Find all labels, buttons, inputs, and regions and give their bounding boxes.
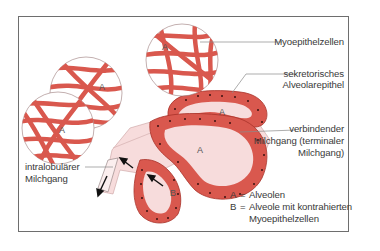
label-myoepithelzellen: Myoepithelzellen <box>274 36 344 47</box>
alveolus-letter-a: A <box>219 107 225 117</box>
alveolus-letter-b: B <box>170 188 176 198</box>
label-intralobulaer-1: intralobulärer <box>25 161 80 172</box>
alveolus-letter-a: A <box>99 82 105 92</box>
legend-b-key: B <box>230 201 236 212</box>
label-verbindender-1: verbindender <box>289 123 344 134</box>
label-verbindender-2: Milchgang (terminaler <box>254 135 344 146</box>
legend-b-text-2: Myoepithelzellen <box>249 213 319 224</box>
label-sekretorisches-2: Alveolarepithel <box>283 79 344 90</box>
alveolus-letter-a: A <box>197 145 203 155</box>
label-sekretorisches-1: sekretorisches <box>284 68 344 79</box>
legend-a-eq: = <box>240 189 246 200</box>
label-intralobulaer-2: Milchgang <box>25 173 68 184</box>
legend-b-eq: = <box>240 201 246 212</box>
myoepithel-alveolus-top <box>140 24 230 100</box>
legend-b-text-1: Alveole mit kontrahierten <box>249 201 352 212</box>
legend-a-key: A <box>230 189 236 200</box>
legend-a-text: Alveolen <box>249 189 285 200</box>
alveolus-letter-a: A <box>59 125 65 135</box>
label-verbindender-3: Milchgang) <box>298 147 344 158</box>
alveolus-letter-a: A <box>162 42 168 52</box>
